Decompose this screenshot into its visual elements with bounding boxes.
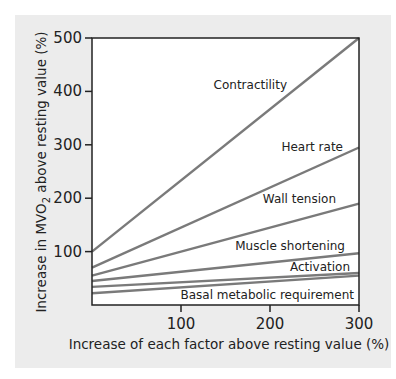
y-tick-label: 500 — [53, 29, 82, 47]
y-tick-label: 300 — [53, 136, 82, 154]
series-label: Heart rate — [281, 140, 343, 154]
series-label: Muscle shortening — [235, 239, 345, 253]
line-chart: 100200300400500 100200300 ContractilityH… — [0, 0, 396, 379]
x-axis-title: Increase of each factor above resting va… — [69, 336, 390, 352]
y-axis-title: Increase in MVO2 above resting value (%) — [33, 31, 52, 312]
series-label: Basal metabolic requirement — [180, 288, 354, 302]
x-tick-label: 200 — [256, 315, 285, 333]
series-label: Activation — [290, 260, 350, 274]
y-tick-label: 100 — [53, 243, 82, 261]
x-axis-ticks: 100200300 — [167, 305, 374, 333]
y-tick-label: 400 — [53, 82, 82, 100]
y-axis-ticks: 100200300400500 — [53, 29, 92, 261]
x-tick-label: 300 — [345, 315, 374, 333]
series-label: Wall tension — [263, 192, 336, 206]
x-tick-label: 100 — [167, 315, 196, 333]
series-label: Contractility — [214, 78, 287, 92]
y-tick-label: 200 — [53, 189, 82, 207]
